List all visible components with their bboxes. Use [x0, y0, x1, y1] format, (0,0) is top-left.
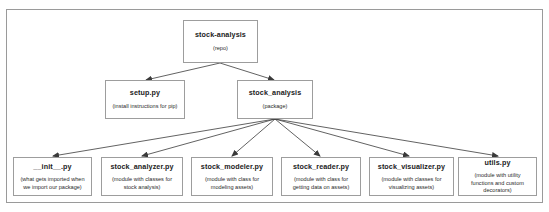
node-title: utils.py	[485, 158, 511, 167]
node-subtitle: (module with classes for visualizing ass…	[373, 176, 450, 192]
edge-root-to-package	[220, 63, 274, 80]
edge-root-to-setup	[146, 63, 220, 80]
node-stock-analysis-repo[interactable]: stock-analysis (repo)	[183, 20, 258, 63]
node-subtitle: (repo)	[212, 45, 229, 53]
node-title: stock_analysis	[249, 88, 302, 97]
node-subtitle: (install instructions for pip)	[112, 103, 179, 111]
node-title: setup.py	[130, 88, 160, 97]
node-title: __init__.py	[33, 162, 71, 171]
edge-package-to-init	[53, 119, 275, 156]
node-stock-analysis-package[interactable]: stock_analysis (package)	[237, 80, 313, 119]
node-title: stock_modeler.py	[201, 162, 263, 171]
edge-package-to-utils	[275, 119, 498, 156]
node-stock-visualizer-py[interactable]: stock_visualizer.py (module with classes…	[369, 157, 454, 196]
node-utils-py[interactable]: utils.py (module with utility functions …	[458, 157, 537, 196]
edge-package-to-reader	[275, 119, 320, 156]
node-title: stock_visualizer.py	[378, 162, 445, 171]
node-subtitle: (module with utility functions and custo…	[462, 172, 533, 195]
node-setup-py[interactable]: setup.py (install instructions for pip)	[105, 80, 185, 119]
node-title: stock-analysis	[195, 30, 246, 39]
node-subtitle: (module with class for getting data on a…	[285, 176, 357, 192]
node-title: stock_analyzer.py	[110, 162, 173, 171]
node-stock-reader-py[interactable]: stock_reader.py (module with class for g…	[281, 157, 361, 196]
diagram-canvas: stock-analysis (repo) setup.py (install …	[0, 0, 549, 212]
node-subtitle: (what gets imported when we import our p…	[17, 176, 88, 192]
node-stock-analyzer-py[interactable]: stock_analyzer.py (module with classes f…	[101, 157, 183, 196]
node-title: stock_reader.py	[293, 162, 349, 171]
node-stock-modeler-py[interactable]: stock_modeler.py (module with class for …	[191, 157, 273, 196]
edge-package-to-modeler	[232, 119, 275, 156]
node-init-py[interactable]: __init__.py (what gets imported when we …	[13, 157, 92, 196]
node-subtitle: (package)	[262, 103, 289, 111]
node-subtitle: (module with class for modeling assets)	[195, 176, 269, 192]
node-subtitle: (module with classes for stock analysis)	[105, 176, 179, 192]
